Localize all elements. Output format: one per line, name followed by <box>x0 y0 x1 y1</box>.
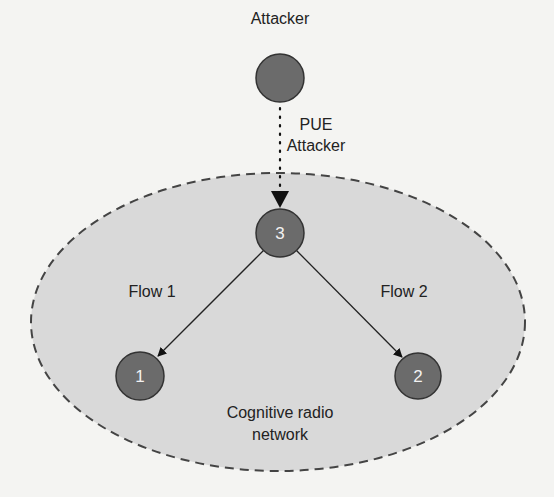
network-label-line2: network <box>252 426 309 443</box>
network-label-line1: Cognitive radio <box>227 404 334 421</box>
node-1-label: 1 <box>135 367 144 386</box>
node-1[interactable]: 1 <box>116 352 164 400</box>
diagram-canvas: Attacker PUE Attacker 3 1 2 Flow 1 Flow … <box>0 0 554 497</box>
node-2-label: 2 <box>413 367 422 386</box>
attacker-node[interactable] <box>256 54 304 102</box>
flow-1-label: Flow 1 <box>128 283 175 300</box>
node-3[interactable]: 3 <box>256 209 304 257</box>
pue-label-line1: PUE <box>300 116 333 133</box>
flow-2-label: Flow 2 <box>380 283 427 300</box>
attacker-label: Attacker <box>251 10 310 27</box>
pue-label-line2: Attacker <box>287 137 346 154</box>
node-3-label: 3 <box>275 224 284 243</box>
node-2[interactable]: 2 <box>395 353 441 399</box>
